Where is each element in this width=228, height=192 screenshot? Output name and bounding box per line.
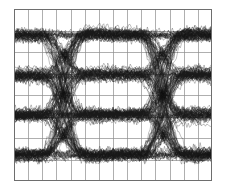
eye-diagram-plot-area	[14, 9, 212, 181]
eye-diagram-figure	[0, 0, 228, 192]
eye-diagram-canvas	[14, 9, 212, 181]
